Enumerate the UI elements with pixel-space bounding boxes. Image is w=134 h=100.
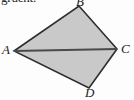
quadrilateral-diagram bbox=[0, 0, 134, 100]
geometry-figure: gruent. A B C D bbox=[0, 0, 134, 100]
quadrilateral-shape bbox=[14, 6, 117, 88]
vertex-label-b: B bbox=[76, 0, 84, 8]
vertex-label-c: C bbox=[121, 42, 130, 55]
vertex-label-a: A bbox=[2, 43, 10, 56]
vertex-label-d: D bbox=[85, 86, 94, 99]
